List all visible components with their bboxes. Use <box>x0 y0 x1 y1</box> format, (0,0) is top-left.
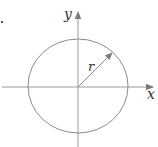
stray-dot <box>1 21 3 23</box>
x-axis-label: x <box>147 86 155 102</box>
circle-diagram: y x r <box>0 0 158 147</box>
radius-arrow <box>78 53 112 87</box>
radius-label: r <box>88 59 95 74</box>
y-axis-label: y <box>63 6 73 22</box>
